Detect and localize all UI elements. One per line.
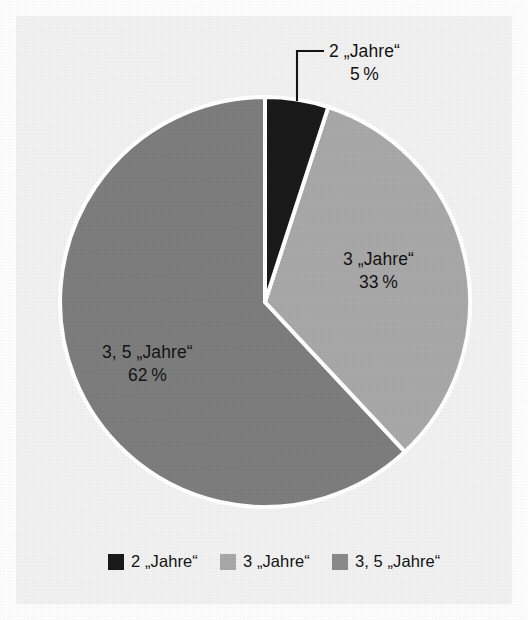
slice-label-3-jahre: 3 „Jahre“ 33 % [343, 248, 414, 294]
legend-label-3-jahre: 3 „Jahre“ [243, 552, 310, 571]
legend-label-2-jahre: 2 „Jahre“ [131, 552, 198, 571]
legend-item-3-5-jahre[interactable]: 3, 5 „Jahre“ [332, 552, 441, 571]
legend-swatch-icon [332, 554, 348, 570]
slice-label-2-jahre: 2 „Jahre“ 5 % [329, 40, 400, 86]
slice-label-2-jahre-name: 2 „Jahre“ [329, 41, 400, 61]
slice-label-3-jahre-percent: 33 % [343, 271, 414, 294]
legend-label-3-5-jahre: 3, 5 „Jahre“ [355, 552, 441, 571]
slice-label-3-5-jahre: 3, 5 „Jahre“ 62 % [102, 341, 193, 387]
legend-item-3-jahre[interactable]: 3 „Jahre“ [220, 552, 310, 571]
pie-chart-graphic [0, 0, 528, 620]
slice-label-2-jahre-percent: 5 % [329, 63, 400, 86]
slice-label-3-5-jahre-percent: 62 % [102, 364, 193, 387]
leader-line-2-jahre [297, 51, 323, 100]
slice-label-3-jahre-name: 3 „Jahre“ [343, 249, 414, 269]
legend-item-2-jahre[interactable]: 2 „Jahre“ [108, 552, 198, 571]
pie-chart-figure: 2 „Jahre“ 5 % 3 „Jahre“ 33 % 3, 5 „Jahre… [0, 0, 528, 620]
slice-label-3-5-jahre-name: 3, 5 „Jahre“ [102, 342, 193, 362]
legend-swatch-icon [220, 554, 236, 570]
legend-swatch-icon [108, 554, 124, 570]
chart-legend: 2 „Jahre“ 3 „Jahre“ 3, 5 „Jahre“ [108, 552, 440, 571]
